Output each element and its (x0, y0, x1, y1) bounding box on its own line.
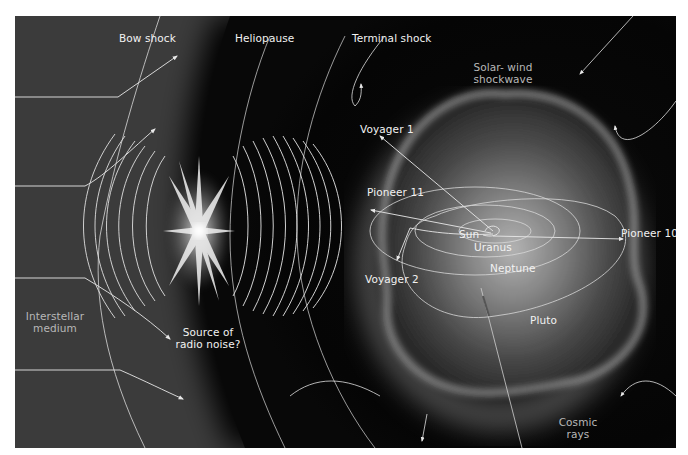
label-cosmic-line1: Cosmic (553, 416, 603, 428)
label-heliopause: Heliopause (235, 32, 294, 44)
label-pioneer-11: Pioneer 11 (367, 186, 424, 198)
label-cosmic-line2: rays (553, 428, 603, 440)
diagram-graphics (15, 16, 676, 448)
label-radio-line1: Source of (173, 326, 243, 338)
label-bow-shock: Bow shock (119, 32, 176, 44)
label-voyager-2: Voyager 2 (365, 273, 419, 285)
label-interstellar-line2: medium (24, 322, 86, 334)
label-pluto: Pluto (530, 314, 557, 326)
heliosphere-diagram: Bow shock Heliopause Terminal shock Sola… (15, 16, 676, 448)
label-sun: Sun (459, 228, 479, 240)
label-voyager-1: Voyager 1 (360, 123, 414, 135)
label-interstellar-line1: Interstellar (24, 310, 86, 322)
label-radio-line2: radio noise? (173, 338, 243, 350)
label-neptune: Neptune (490, 262, 536, 274)
label-uranus: Uranus (474, 241, 512, 253)
label-terminal-shock: Terminal shock (352, 32, 432, 44)
label-radio-noise-source: Source of radio noise? (173, 326, 243, 350)
label-interstellar-medium: Interstellar medium (24, 310, 86, 334)
label-solar-wind-shockwave: Solar- wind shockwave (463, 61, 543, 85)
label-pioneer-10: Pioneer 10 (621, 227, 676, 239)
label-solar-wind-line2: shockwave (463, 73, 543, 85)
label-solar-wind-line1: Solar- wind (463, 61, 543, 73)
label-cosmic-rays: Cosmic rays (553, 416, 603, 440)
